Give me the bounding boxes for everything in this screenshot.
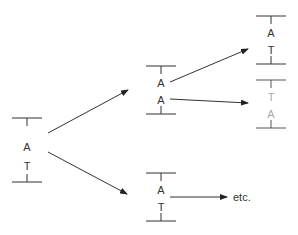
- replication-diagram: A T A A A T A T T A etc.: [0, 0, 298, 235]
- arrow-root-to-mid-top: [48, 90, 128, 133]
- arrow-root-to-mid-bottom: [48, 152, 127, 194]
- arrow-mid-top-to-right-top: [170, 49, 248, 82]
- right-top-bottom-base: T: [268, 44, 275, 56]
- mid-bottom-top-base: A: [157, 184, 165, 196]
- etc-label: etc.: [233, 191, 251, 203]
- mid-top-top-base: A: [157, 77, 165, 89]
- node-right-second: [256, 80, 286, 128]
- mid-top-bottom-base: A: [157, 94, 165, 106]
- right-top-top-base: A: [267, 27, 275, 39]
- root-top-base: A: [23, 141, 31, 153]
- arrow-mid-top-to-right-second: [170, 99, 248, 103]
- node-mid-top: [146, 66, 176, 114]
- mid-bottom-bottom-base: T: [158, 201, 165, 213]
- right-second-top-base: T: [268, 91, 275, 103]
- node-right-top: [256, 16, 286, 64]
- root-bottom-base: T: [24, 160, 31, 172]
- right-second-bottom-base: A: [267, 108, 275, 120]
